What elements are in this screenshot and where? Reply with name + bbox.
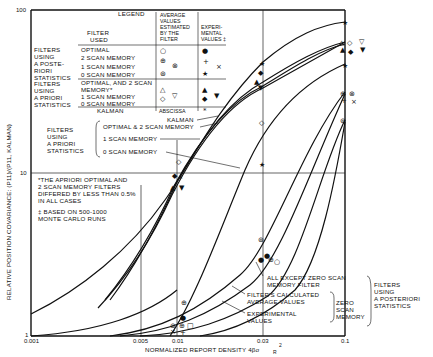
svg-text:VALUES ‡: VALUES ‡ bbox=[201, 36, 226, 42]
label-kalman: KALMAN bbox=[167, 116, 194, 123]
marker-03-star-small: ★ bbox=[259, 161, 265, 169]
legend-x-circle-icon: ⊗ bbox=[172, 62, 178, 70]
svg-text:VALUES: VALUES bbox=[247, 317, 272, 324]
svg-text:2 SCAN MEMORY FILTERS: 2 SCAN MEMORY FILTERS bbox=[38, 183, 121, 190]
svg-text:FILTERS: FILTERS bbox=[34, 46, 60, 53]
legend-prio-group: FILTERS USING A PRIORI STATISTICS OPTIMA… bbox=[34, 79, 152, 108]
svg-text:RIORI: RIORI bbox=[34, 67, 52, 74]
svg-text:NORMALIZED REPORT DENSITY 4βσ: NORMALIZED REPORT DENSITY 4βσ bbox=[145, 346, 260, 353]
legend-title: LEGEND bbox=[118, 10, 145, 17]
svg-text:EXPERIMENTAL: EXPERIMENTAL bbox=[247, 310, 297, 317]
svg-text:DIFFERED BY LESS THAN 0.5%: DIFFERED BY LESS THAN 0.5% bbox=[38, 190, 136, 197]
svg-text:0 SCAN MEMORY: 0 SCAN MEMORY bbox=[81, 100, 135, 107]
x-tick-001: 0.01 bbox=[172, 338, 184, 344]
legend-kalman: KALMAN bbox=[97, 107, 124, 114]
svg-text:2 SCAN MEMORY: 2 SCAN MEMORY bbox=[81, 54, 135, 61]
svg-text:MONTE CARLO RUNS: MONTE CARLO RUNS bbox=[38, 215, 106, 222]
legend-diamond-open-icon: ◇ bbox=[160, 95, 166, 103]
marker-triangle-down-filled: ▼ bbox=[360, 46, 366, 54]
legend: LEGEND FILTER USED AVERAGE VALUES ESTIMA… bbox=[34, 10, 226, 115]
legend-triangle-open-icon: △ bbox=[160, 86, 166, 94]
svg-text:1 SCAN MEMORY: 1 SCAN MEMORY bbox=[81, 93, 135, 100]
marker-03-asterisk-circle: ⊛ bbox=[258, 236, 264, 244]
svg-text:STATISTICS: STATISTICS bbox=[34, 101, 71, 108]
svg-text:AVERAGE VALUES: AVERAGE VALUES bbox=[247, 298, 305, 305]
marker-triangle-down-open: ▽ bbox=[359, 38, 365, 46]
marker-triangle-filled: ▲ bbox=[340, 46, 346, 54]
svg-text:FILTER'S CALCULATED: FILTER'S CALCULATED bbox=[247, 291, 319, 298]
legend-star-icon: ★ bbox=[202, 70, 208, 78]
legend-crossed-circle-icon: ⊕ bbox=[160, 57, 166, 65]
svg-text:1 SCAN MEMORY: 1 SCAN MEMORY bbox=[81, 63, 135, 70]
marker-01-plus: + bbox=[180, 329, 186, 337]
y-tick-100: 100 bbox=[16, 7, 27, 13]
legend-asterisk-circle-icon: ⊛ bbox=[160, 70, 166, 78]
legend-x-icon: × bbox=[216, 63, 222, 71]
marker-01-star: * bbox=[179, 175, 183, 183]
posteriori-labels: ALL EXCEPT ZERO SCAN MEMORY FILTER FILTE… bbox=[222, 262, 420, 326]
svg-text:A PRIORI: A PRIORI bbox=[34, 94, 62, 101]
svg-text:‡ BASED ON 500-1000: ‡ BASED ON 500-1000 bbox=[38, 208, 107, 215]
apriori-labels: KALMAN OPTIMAL & 2 SCAN MEMORY 1 SCAN ME… bbox=[47, 116, 240, 168]
marker-asterisk-circle: ⊛ bbox=[340, 117, 346, 125]
legend-open-circle-icon: ○ bbox=[160, 47, 166, 55]
x-tick-0005: 0.005 bbox=[133, 338, 149, 344]
legend-diamond-filled-icon: ◆ bbox=[202, 95, 208, 103]
marker-star-small: ★ bbox=[342, 62, 348, 70]
marker-01-diamond-open: ◇ bbox=[176, 158, 182, 166]
legend-triangle-down-open-icon: ▽ bbox=[172, 92, 178, 100]
svg-text:R: R bbox=[273, 349, 277, 355]
svg-text:FILTERS: FILTERS bbox=[374, 281, 400, 288]
label-0scan: 0 SCAN MEMORY bbox=[103, 148, 157, 155]
y-ticks: 100 10 1 bbox=[16, 7, 29, 338]
marker-plus: + bbox=[341, 97, 347, 105]
curve-kalman bbox=[31, 22, 345, 314]
marker-03-diamond: ◆ bbox=[258, 69, 264, 77]
legend-plus-icon: + bbox=[203, 58, 209, 66]
marker-x: × bbox=[351, 98, 357, 106]
marker-03-open-circle: ○ bbox=[274, 258, 280, 266]
chart: 100 10 1 0.001 0.005 0.01 0.03 0.1 NORMA… bbox=[0, 0, 433, 357]
markers: ★ △ ◇ ▽ ▲ ◆ ▼ ★ ⊕ ⊗ × + ⊛ ★ ◆ ▲ ▼ ◇ ★ ⊛ … bbox=[170, 19, 366, 337]
svg-text:FILTER: FILTER bbox=[160, 36, 178, 42]
y-tick-10: 10 bbox=[20, 170, 27, 176]
svg-text:A POSTERIORI: A POSTERIORI bbox=[374, 295, 420, 302]
legend-filled-circle-icon: ● bbox=[202, 47, 208, 55]
svg-text:STATISTICS: STATISTICS bbox=[374, 302, 411, 309]
svg-text:USING: USING bbox=[374, 288, 395, 295]
label-opt2: OPTIMAL & 2 SCAN MEMORY bbox=[103, 123, 194, 130]
marker-kalman-star: ★ bbox=[342, 19, 348, 27]
svg-text:SCAN: SCAN bbox=[336, 306, 354, 313]
svg-text:*THE APRIORI OPTIMAL AND: *THE APRIORI OPTIMAL AND bbox=[38, 176, 128, 183]
svg-text:FILTER: FILTER bbox=[87, 29, 109, 36]
marker-03-diamond-open: ◇ bbox=[259, 119, 265, 127]
legend-kalman-star-icon: * bbox=[203, 107, 207, 115]
svg-text:STATISTICS: STATISTICS bbox=[47, 147, 84, 154]
svg-text:FILTERS: FILTERS bbox=[34, 80, 60, 87]
svg-text:2: 2 bbox=[279, 342, 282, 348]
y-axis-title: RELATIVE POSITION COVARIANCE: (P11)/(P11… bbox=[5, 124, 12, 300]
curve-posteriori-zero bbox=[140, 120, 345, 336]
svg-text:OPTIMAL, AND 2 SCAN: OPTIMAL, AND 2 SCAN bbox=[81, 79, 152, 86]
x-tick-0001: 0.001 bbox=[24, 338, 40, 344]
svg-text:OPTIMAL: OPTIMAL bbox=[81, 46, 110, 53]
marker-diamond-filled: ◆ bbox=[348, 48, 354, 56]
x-tick-003: 0.03 bbox=[257, 338, 269, 344]
svg-text:ALL EXCEPT ZERO SCAN: ALL EXCEPT ZERO SCAN bbox=[267, 274, 346, 281]
marker-03-star: ★ bbox=[259, 60, 265, 68]
svg-text:MEMORY FILTER: MEMORY FILTER bbox=[267, 281, 320, 288]
x-tick-01: 0.1 bbox=[341, 338, 350, 344]
svg-text:MEMORY: MEMORY bbox=[336, 313, 365, 320]
svg-text:USING: USING bbox=[47, 133, 68, 140]
svg-text:ZERO: ZERO bbox=[336, 299, 354, 306]
svg-text:A PRIORI: A PRIORI bbox=[47, 140, 75, 147]
marker-01-circle: ⊕ bbox=[181, 299, 187, 307]
marker-diamond-open: ◇ bbox=[347, 39, 353, 47]
svg-text:USED: USED bbox=[90, 36, 108, 43]
label-1scan: 1 SCAN MEMORY bbox=[103, 135, 157, 142]
svg-text:0 SCAN MEMORY: 0 SCAN MEMORY bbox=[81, 71, 135, 78]
legend-abscissa: ABSCISSA bbox=[159, 108, 186, 114]
legend-triangle-down-filled-icon: ▼ bbox=[214, 92, 220, 100]
legend-triangle-filled-icon: ▲ bbox=[202, 86, 208, 94]
svg-text:FILTERS: FILTERS bbox=[47, 126, 73, 133]
